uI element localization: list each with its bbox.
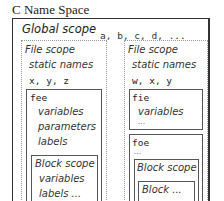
function-fee-name: fee	[30, 92, 47, 103]
foe-item-ellipsis: ...	[134, 147, 142, 156]
file-scope-left-static-label: static names	[29, 59, 93, 70]
fie-item-variables: variables	[138, 106, 184, 117]
fee-block-item-variables: variables	[39, 173, 85, 184]
fee-item-labels: labels	[38, 136, 67, 147]
global-scope-label: Global scope	[22, 22, 96, 36]
function-fie-name: fie	[132, 92, 149, 103]
file-scope-left-label: File scope	[25, 44, 75, 55]
fee-block-scope-label: Block scope	[35, 158, 95, 169]
file-scope-left-names: x, y, z	[29, 75, 69, 86]
file-scope-right-label: File scope	[128, 44, 178, 55]
fee-item-parameters: parameters	[38, 121, 96, 132]
fie-item-ellipsis: ...	[138, 117, 146, 126]
file-scope-right-names: w, x, y	[132, 75, 172, 86]
foe-inner-block-label: Block ...	[142, 184, 182, 195]
diagram-title: C Name Space	[12, 2, 89, 18]
file-scope-right-static-label: static names	[132, 59, 196, 70]
fee-block-item-labels: labels ...	[39, 188, 81, 199]
fee-item-variables: variables	[38, 106, 84, 117]
foe-block-scope-label: Block scope	[137, 162, 197, 173]
